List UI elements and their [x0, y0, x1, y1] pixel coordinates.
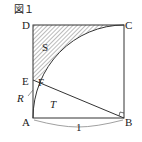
label-t: T	[50, 98, 57, 110]
label-s: S	[42, 41, 48, 53]
figure-title: 図１	[14, 4, 34, 15]
label-r: R	[16, 92, 24, 104]
label-f: F	[38, 76, 44, 88]
label-e: E	[22, 75, 29, 87]
geometry-diagram: 図１ D C A B E F S T R 1	[0, 0, 142, 142]
label-a: A	[22, 116, 30, 128]
right-angle-mark	[119, 112, 124, 116]
label-d: D	[22, 19, 30, 31]
label-b: B	[125, 116, 132, 128]
r-leader-line	[28, 90, 33, 96]
label-side-length: 1	[76, 121, 82, 133]
segment-eb	[33, 80, 124, 118]
label-c: C	[125, 19, 132, 31]
